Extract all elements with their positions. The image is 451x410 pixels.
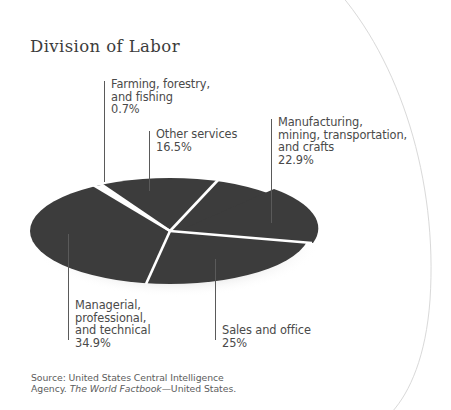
callout-manufacturing-line3: and crafts <box>278 141 407 154</box>
callout-sales-value: 25% <box>222 337 311 350</box>
callout-farming: Farming, forestry, and fishing 0.7% <box>111 78 210 116</box>
leader-line-sales <box>215 259 216 340</box>
callout-managerial-line1: Managerial, <box>75 299 151 312</box>
source-note-line1: Source: United States Central Intelligen… <box>31 372 236 383</box>
source-note-suffix: —United States. <box>162 383 236 394</box>
callout-manufacturing: Manufacturing, mining, transportation, a… <box>278 116 407 166</box>
callout-managerial: Managerial, professional, and technical … <box>75 299 151 349</box>
source-note-agency: Agency. <box>31 383 70 394</box>
callout-manufacturing-line1: Manufacturing, <box>278 116 407 129</box>
chart-page: Division of Labor <box>0 0 451 410</box>
callout-manufacturing-value: 22.9% <box>278 154 407 167</box>
source-note-title: The World Factbook <box>70 383 162 394</box>
callout-sales: Sales and office 25% <box>222 324 311 349</box>
callout-other-services-value: 16.5% <box>156 141 237 154</box>
callout-sales-line1: Sales and office <box>222 324 311 337</box>
callout-farming-value: 0.7% <box>111 103 210 116</box>
callout-other-services-line1: Other services <box>156 128 237 141</box>
leader-line-other <box>149 131 150 191</box>
source-note: Source: United States Central Intelligen… <box>31 372 236 395</box>
callout-farming-line1: Farming, forestry, <box>111 78 210 91</box>
callout-managerial-value: 34.9% <box>75 337 151 350</box>
source-note-line2: Agency. The World Factbook—United States… <box>31 383 236 394</box>
leader-line-managerial <box>68 234 69 340</box>
callout-managerial-line3: and technical <box>75 324 151 337</box>
callout-other-services: Other services 16.5% <box>156 128 237 153</box>
leader-line-manufacturing <box>271 119 272 223</box>
leader-line-farming <box>104 81 105 182</box>
